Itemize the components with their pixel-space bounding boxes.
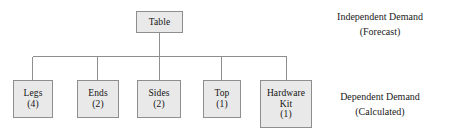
- node-ends-quantity: (2): [92, 99, 103, 110]
- annotation-dependent-demand-line1: Dependent Demand: [305, 90, 455, 105]
- node-legs[interactable]: Legs (4): [13, 80, 53, 118]
- node-top-quantity: (1): [216, 99, 227, 110]
- node-sides-quantity: (2): [153, 99, 164, 110]
- node-legs-quantity: (4): [27, 99, 38, 110]
- annotation-independent-demand-line2: (Forecast): [305, 25, 455, 40]
- node-table-label: Table: [149, 17, 170, 28]
- node-ends[interactable]: Ends (2): [77, 80, 119, 118]
- node-hardware-kit-label: Hardware: [267, 88, 305, 99]
- annotation-dependent-demand: Dependent Demand (Calculated): [305, 90, 455, 119]
- node-sides-label: Sides: [148, 88, 169, 99]
- bom-tree-diagram: Table Legs (4) Ends (2) Sides (2) Top (1…: [0, 0, 455, 137]
- node-table[interactable]: Table: [136, 11, 183, 33]
- node-top[interactable]: Top (1): [203, 80, 241, 118]
- node-legs-label: Legs: [24, 88, 43, 99]
- annotation-independent-demand-line1: Independent Demand: [305, 10, 455, 25]
- annotation-independent-demand: Independent Demand (Forecast): [305, 10, 455, 39]
- node-sides[interactable]: Sides (2): [137, 80, 181, 118]
- node-ends-label: Ends: [88, 88, 107, 99]
- node-top-label: Top: [215, 88, 230, 99]
- node-hardware-kit-quantity: (1): [280, 109, 291, 120]
- node-hardware-kit-label-2: Kit: [280, 99, 292, 110]
- annotation-dependent-demand-line2: (Calculated): [305, 105, 455, 120]
